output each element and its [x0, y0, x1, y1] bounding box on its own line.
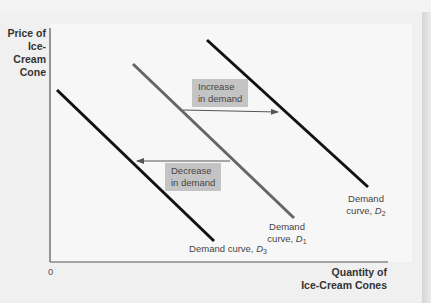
y-axis-title: Price of Ice-Cream Cone: [0, 27, 46, 79]
increase-in-demand-label: Increase in demand: [192, 79, 248, 107]
demand-curve-d2: [207, 40, 368, 187]
origin-label: 0: [48, 266, 53, 277]
decrease-in-demand-label: Decrease in demand: [165, 163, 221, 191]
increase-arrow: [183, 110, 278, 112]
x-axis-title: Quantity of Ice-Cream Cones: [301, 266, 387, 292]
curve-label-d3: Demand curve, D3: [178, 243, 278, 258]
curve-label-d2: Demand curve, D2: [343, 193, 389, 220]
